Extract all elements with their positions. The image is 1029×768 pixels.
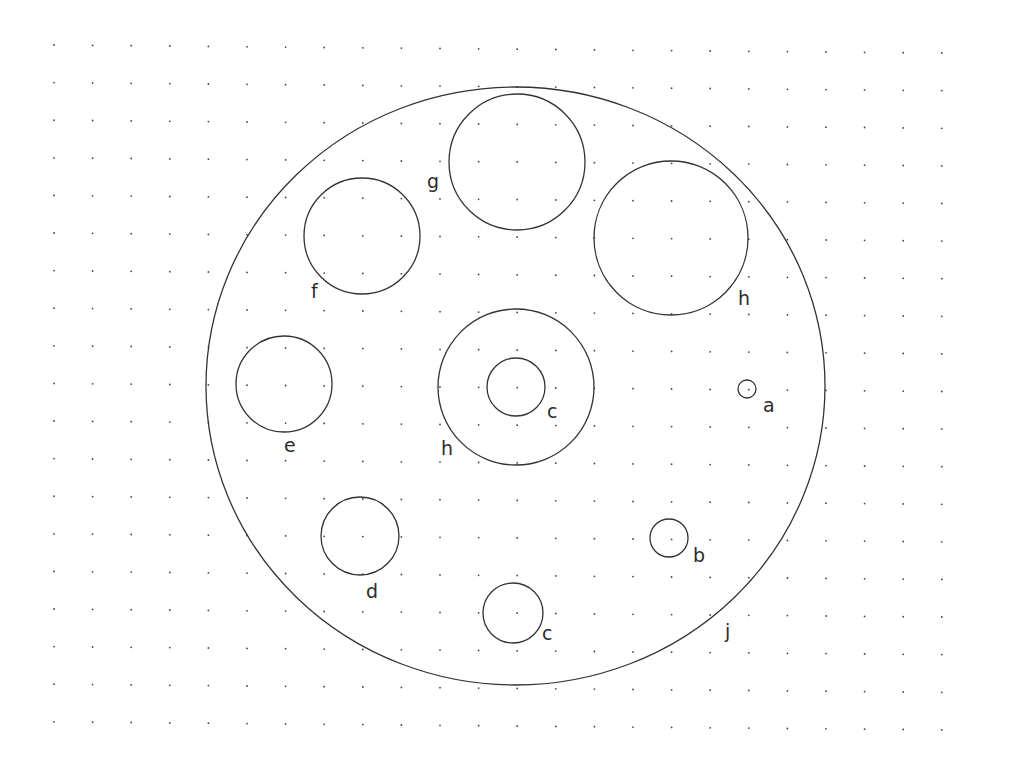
- grid-dot: [478, 462, 480, 464]
- grid-dot: [169, 158, 171, 160]
- grid-dot: [555, 425, 557, 427]
- grid-dot: [632, 501, 634, 503]
- grid-dot: [671, 50, 673, 52]
- label-layer: j gfhhceadbc: [284, 170, 775, 644]
- circle-c2[interactable]: [483, 583, 543, 643]
- grid-dot: [246, 309, 248, 311]
- grid-dot: [130, 383, 132, 385]
- grid-dot: [516, 199, 518, 201]
- grid-dot: [285, 723, 287, 725]
- grid-dot: [362, 47, 364, 49]
- grid-dot: [478, 86, 480, 88]
- grid-dot: [208, 83, 210, 85]
- grid-dot: [594, 275, 596, 277]
- grid-dot: [902, 277, 904, 279]
- grid-dot: [53, 721, 55, 723]
- grid-dot: [92, 232, 94, 234]
- grid-dot: [787, 201, 789, 203]
- grid-dot: [362, 273, 364, 275]
- grid-dot: [401, 423, 403, 425]
- grid-dot: [401, 235, 403, 237]
- grid-dot: [902, 729, 904, 731]
- grid-dot: [864, 164, 866, 166]
- grid-dot: [941, 729, 943, 731]
- grid-dot: [130, 421, 132, 423]
- grid-dot: [516, 124, 518, 126]
- grid-dot: [902, 127, 904, 129]
- outer-circle-j[interactable]: [206, 87, 825, 685]
- grid-dot: [401, 649, 403, 651]
- grid-dot: [787, 88, 789, 90]
- grid-dot: [246, 422, 248, 424]
- grid-dot: [594, 124, 596, 126]
- grid-dot: [787, 239, 789, 241]
- grid-dot: [594, 500, 596, 502]
- grid-dot: [516, 48, 518, 50]
- grid-dot: [323, 573, 325, 575]
- grid-dot: [362, 235, 364, 237]
- grid-dot: [709, 614, 711, 616]
- grid-dot: [748, 314, 750, 316]
- grid-dot: [478, 198, 480, 200]
- grid-dot: [941, 691, 943, 693]
- grid-dot: [401, 724, 403, 726]
- grid-dot: [709, 652, 711, 654]
- circle-a[interactable]: [738, 380, 756, 398]
- grid-dot: [323, 47, 325, 49]
- grid-dot: [362, 649, 364, 651]
- circle-h2[interactable]: [438, 309, 594, 465]
- grid-dot: [864, 540, 866, 542]
- grid-dot: [323, 423, 325, 425]
- grid-dot: [864, 127, 866, 129]
- grid-dot: [439, 612, 441, 614]
- grid-dot: [246, 610, 248, 612]
- grid-dot: [169, 83, 171, 85]
- grid-dot: [401, 198, 403, 200]
- grid-dot: [864, 728, 866, 730]
- grid-dot: [825, 126, 827, 128]
- grid-dot: [169, 196, 171, 198]
- grid-dot: [92, 496, 94, 498]
- circle-b[interactable]: [650, 519, 688, 557]
- grid-dot: [478, 123, 480, 125]
- grid-dot: [53, 345, 55, 347]
- grid-dot: [748, 614, 750, 616]
- grid-dot: [864, 616, 866, 618]
- grid-dot: [748, 426, 750, 428]
- grid-dot: [787, 314, 789, 316]
- circle-e[interactable]: [236, 336, 332, 432]
- grid-dot: [92, 458, 94, 460]
- grid-dot: [130, 82, 132, 84]
- grid-dot: [516, 462, 518, 464]
- grid-dot: [208, 234, 210, 236]
- grid-dot: [169, 421, 171, 423]
- grid-dot: [208, 309, 210, 311]
- circle-d[interactable]: [321, 497, 399, 575]
- grid-dot: [555, 162, 557, 164]
- grid-dot: [439, 236, 441, 238]
- grid-dot: [632, 613, 634, 615]
- grid-dot: [362, 85, 364, 87]
- grid-dot: [941, 428, 943, 430]
- grid-dot: [825, 465, 827, 467]
- grid-dot: [825, 314, 827, 316]
- grid-dot: [169, 609, 171, 611]
- grid-dot: [439, 461, 441, 463]
- grid-dot: [246, 272, 248, 274]
- circle-c1[interactable]: [487, 358, 545, 416]
- grid-dot: [439, 198, 441, 200]
- grid-dot: [825, 540, 827, 542]
- grid-dot: [362, 197, 364, 199]
- grid-dot: [787, 690, 789, 692]
- grid-dot: [246, 648, 248, 650]
- grid-dot: [632, 200, 634, 202]
- grid-dot: [323, 272, 325, 274]
- grid-dot: [439, 649, 441, 651]
- grid-dot: [323, 197, 325, 199]
- grid-dot: [285, 121, 287, 123]
- grid-dot: [671, 275, 673, 277]
- grid-dot: [555, 650, 557, 652]
- grid-dot: [787, 164, 789, 166]
- grid-dot: [401, 687, 403, 689]
- grid-dot: [902, 541, 904, 543]
